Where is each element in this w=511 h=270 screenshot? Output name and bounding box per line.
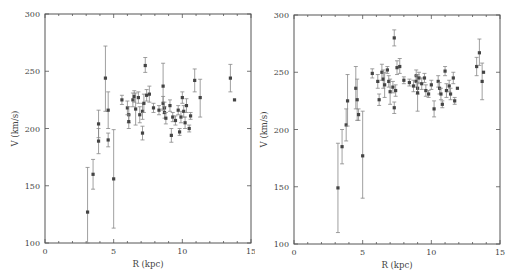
data-point-marker [91, 173, 94, 176]
rotation-curve-panel-right: 051015100150200250300R (kpc)V (km/s) [255, 0, 510, 270]
scatter-plot-right: 051015100150200250300R (kpc)V (km/s) [255, 0, 511, 270]
data-point-marker [183, 121, 186, 124]
x-tick-label: 15 [246, 247, 255, 256]
data-point-marker [402, 79, 405, 82]
y-tick-label: 150 [25, 182, 40, 191]
data-point-marker [456, 87, 459, 90]
y-axis-title: V (km/s) [10, 111, 20, 148]
data-point-marker [112, 177, 115, 180]
data-point-marker [152, 106, 155, 109]
y-tick-label: 200 [274, 126, 289, 135]
data-point-marker [449, 92, 452, 95]
plot-frame [294, 15, 500, 244]
data-point-marker [481, 80, 484, 83]
y-tick-label: 250 [274, 68, 289, 77]
data-point-marker [233, 98, 236, 101]
data-point-marker [127, 120, 130, 123]
data-point-marker [174, 119, 177, 122]
data-point-marker [188, 127, 191, 130]
data-point-marker [423, 76, 426, 79]
data-point-marker [361, 154, 364, 157]
x-tick-label: 0 [291, 248, 296, 257]
data-point-marker [408, 81, 411, 84]
data-point-marker [416, 91, 419, 94]
y-tick-label: 200 [25, 125, 40, 134]
data-point-marker [170, 134, 173, 137]
scatter-plot-left: 051015100150200250300R (kpc)V (km/s) [0, 0, 255, 270]
x-tick-label: 0 [42, 247, 47, 256]
data-point-marker [148, 93, 151, 96]
data-point-marker [164, 117, 167, 120]
data-point-marker [439, 92, 442, 95]
data-point-marker [97, 139, 100, 142]
y-tick-label: 300 [274, 11, 289, 20]
data-point-marker [336, 186, 339, 189]
data-point-marker [393, 106, 396, 109]
data-point-marker [162, 85, 165, 88]
data-point-marker [141, 131, 144, 134]
data-point-marker [394, 89, 397, 92]
data-point-marker [386, 68, 389, 71]
y-tick-label: 250 [25, 67, 40, 76]
data-point-marker [107, 138, 110, 141]
data-point-marker [229, 77, 232, 80]
data-point-marker [357, 113, 360, 116]
data-point-marker [441, 103, 444, 106]
data-series [336, 30, 485, 233]
data-point-marker [398, 65, 401, 68]
data-point-marker [378, 98, 381, 101]
data-point-marker [427, 92, 430, 95]
data-point-marker [120, 98, 123, 101]
data-point-marker [356, 98, 359, 101]
y-tick-label: 100 [25, 239, 40, 248]
data-point-marker [185, 104, 188, 107]
data-point-marker [189, 114, 192, 117]
x-tick-label: 5 [360, 248, 365, 257]
data-point-marker [137, 96, 140, 99]
x-tick-label: 10 [426, 248, 436, 257]
data-point-marker [376, 80, 379, 83]
data-point-marker [142, 102, 145, 105]
data-point-marker [134, 107, 137, 110]
x-axis-title: R (kpc) [132, 259, 163, 269]
y-tick-label: 300 [25, 10, 40, 19]
x-tick-label: 5 [111, 247, 116, 256]
data-point-marker [448, 84, 451, 87]
plot-frame [45, 14, 251, 243]
data-point-marker [145, 94, 148, 97]
data-point-marker [346, 99, 349, 102]
data-point-marker [453, 99, 456, 102]
data-point-marker [144, 64, 147, 67]
data-point-marker [430, 83, 433, 86]
data-point-marker [432, 107, 435, 110]
data-point-marker [391, 86, 394, 89]
data-point-marker [340, 145, 343, 148]
rotation-curve-panel-left: 051015100150200250300R (kpc)V (km/s) [0, 0, 255, 270]
data-point-marker [199, 96, 202, 99]
data-point-marker [395, 66, 398, 69]
x-axis-title: R (kpc) [381, 260, 412, 270]
data-point-marker [138, 113, 141, 116]
y-axis-title: V (km/s) [259, 112, 269, 149]
data-series [86, 46, 237, 243]
data-point-marker [168, 104, 171, 107]
data-point-marker [181, 96, 184, 99]
y-tick-label: 150 [274, 183, 289, 192]
data-point-marker [452, 76, 455, 79]
data-point-marker [86, 210, 89, 213]
data-point-marker [178, 130, 181, 133]
data-point-marker [107, 109, 110, 112]
data-point-marker [443, 70, 446, 73]
data-point-marker [104, 77, 107, 80]
data-point-marker [157, 109, 160, 112]
x-tick-label: 10 [177, 247, 187, 256]
data-point-marker [393, 36, 396, 39]
data-point-marker [383, 83, 386, 86]
data-point-marker [97, 122, 100, 125]
data-point-marker [482, 71, 485, 74]
y-tick-label: 100 [274, 240, 289, 249]
x-tick-label: 15 [495, 248, 505, 257]
data-point-marker [371, 72, 374, 75]
data-point-marker [478, 51, 481, 54]
data-point-marker [193, 79, 196, 82]
